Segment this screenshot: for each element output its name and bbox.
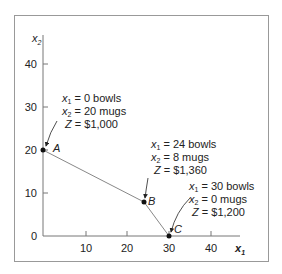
y-tick-label-20: 20 <box>25 144 37 156</box>
chart-frame <box>15 16 269 262</box>
x-tick-label-40: 40 <box>205 242 217 254</box>
point-c-label: C <box>174 223 182 235</box>
svg-text:Z = $1,200: Z = $1,200 <box>191 206 245 218</box>
annotation-b: x1 = 24 bowls x2 = 8 mugs Z = $1,360 <box>150 138 217 176</box>
y-tick-label-30: 30 <box>25 101 37 113</box>
svg-text:Z = $1,000: Z = $1,000 <box>64 118 118 130</box>
svg-text:x1 = 30 bowls: x1 = 30 bowls <box>188 180 255 193</box>
x-tick-label-20: 20 <box>121 242 133 254</box>
x-ticks: 10 20 30 40 <box>80 231 217 254</box>
svg-text:x1 = 24 bowls: x1 = 24 bowls <box>150 138 217 151</box>
y-axis-label: x2 <box>31 32 42 46</box>
y-tick-label-0: 0 <box>31 230 37 242</box>
svg-text:x2 = 8 mugs: x2 = 8 mugs <box>150 151 210 164</box>
point-b-label: B <box>148 195 155 207</box>
point-a <box>41 148 46 153</box>
chart: 0 10 20 30 40 10 20 30 40 x2 x1 A B C x1… <box>0 0 282 274</box>
x-tick-label-10: 10 <box>80 242 92 254</box>
svg-text:x2 = 20 mugs: x2 = 20 mugs <box>61 105 127 118</box>
x-tick-label-30: 30 <box>163 242 175 254</box>
svg-text:Z = $1,360: Z = $1,360 <box>153 164 207 176</box>
y-tick-label-40: 40 <box>25 58 37 70</box>
x-axis-label: x1 <box>234 242 245 256</box>
point-a-label: A <box>52 142 60 154</box>
svg-text:x1 = 0 bowls: x1 = 0 bowls <box>61 92 122 105</box>
annotation-a: x1 = 0 bowls x2 = 20 mugs Z = $1,000 <box>61 92 127 130</box>
point-b <box>142 200 147 205</box>
y-tick-label-10: 10 <box>25 187 37 199</box>
annotation-c: x1 = 30 bowls x2 = 0 mugs Z = $1,200 <box>188 180 255 218</box>
svg-text:x2 = 0 mugs: x2 = 0 mugs <box>188 193 248 206</box>
point-c <box>167 234 172 239</box>
